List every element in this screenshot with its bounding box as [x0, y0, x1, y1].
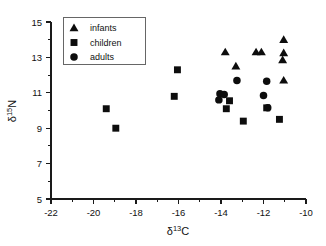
data-point-infants [279, 35, 288, 43]
y-tick-label: 15 [31, 17, 42, 28]
legend-label-adults: adults [90, 52, 115, 62]
data-point-infants [231, 62, 240, 70]
svg-text:δ15N: δ15N [5, 100, 18, 122]
data-point-children [171, 93, 178, 100]
x-axis-major-ticks [51, 199, 306, 204]
data-point-children [226, 97, 233, 104]
y-axis-title-element: N [6, 100, 18, 108]
legend: infantschildrenadults [63, 17, 145, 64]
x-tick-label: -20 [87, 207, 101, 218]
data-point-children [103, 105, 110, 112]
data-point-adults [263, 78, 270, 85]
data-point-children [112, 125, 119, 132]
y-axis-title-superscript: 15 [5, 108, 14, 116]
x-tick-label: -16 [172, 207, 186, 218]
x-tick-label: -10 [299, 207, 313, 218]
x-axis-title-superscript: 13 [173, 224, 181, 233]
y-axis-title: δ15N [5, 100, 18, 122]
x-axis-tick-labels: -22-20-18-16-14-12-10 [44, 207, 313, 218]
y-tick-label: 9 [37, 123, 42, 134]
scatter-plot: 579111315 -22-20-18-16-14-12-10 δ15N δ13… [0, 0, 326, 246]
y-axis-tick-labels: 579111315 [31, 17, 42, 205]
chart-container: 579111315 -22-20-18-16-14-12-10 δ15N δ13… [0, 0, 326, 246]
legend-label-children: children [90, 38, 122, 48]
data-point-infants [279, 76, 288, 84]
data-point-adults [220, 91, 227, 98]
data-point-adults [260, 92, 267, 99]
x-axis-title-element: C [181, 225, 189, 237]
data-point-adults [264, 104, 271, 111]
data-point-children [223, 105, 230, 112]
x-tick-label: -14 [214, 207, 228, 218]
svg-text:δ13C: δ13C [167, 224, 189, 237]
data-point-infants [221, 48, 230, 56]
data-point-children [174, 66, 181, 73]
y-tick-label: 13 [31, 52, 42, 63]
legend-marker-children [71, 39, 78, 46]
series-children [103, 66, 283, 131]
x-tick-label: -12 [257, 207, 271, 218]
data-point-children [240, 118, 247, 125]
x-tick-label: -22 [44, 207, 58, 218]
y-tick-label: 7 [37, 158, 42, 169]
x-tick-label: -18 [129, 207, 143, 218]
data-point-adults [215, 96, 222, 103]
data-point-children [276, 116, 283, 123]
legend-marker-adults [70, 53, 77, 60]
legend-label-infants: infants [90, 23, 117, 33]
x-axis-title: δ13C [167, 224, 189, 237]
data-point-adults [233, 77, 240, 84]
data-point-infants [278, 56, 287, 64]
series-infants [221, 35, 288, 83]
y-tick-label: 11 [32, 87, 42, 98]
data-point-infants [279, 49, 288, 57]
y-tick-label: 5 [37, 194, 42, 205]
